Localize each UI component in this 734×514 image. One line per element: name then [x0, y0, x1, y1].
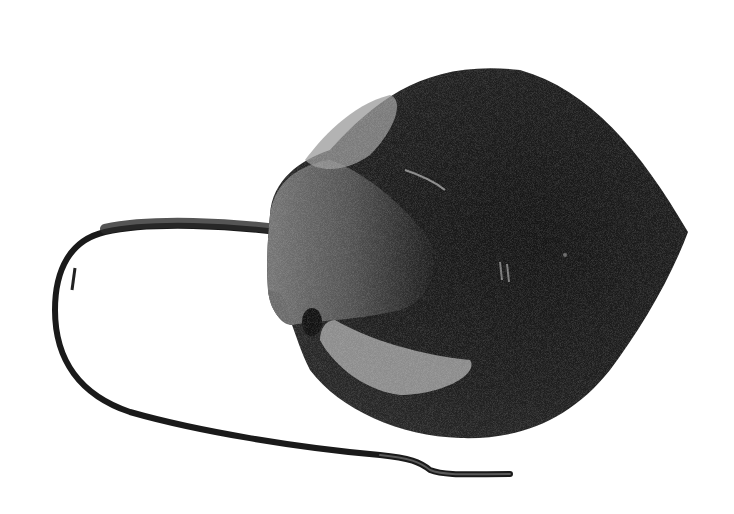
- stingray-body: [267, 68, 688, 438]
- illustration-canvas: Stingray illustration: [0, 0, 734, 514]
- stingray-illustration: [0, 0, 734, 514]
- stipple-texture: [267, 68, 688, 438]
- tail-spine: [72, 268, 75, 290]
